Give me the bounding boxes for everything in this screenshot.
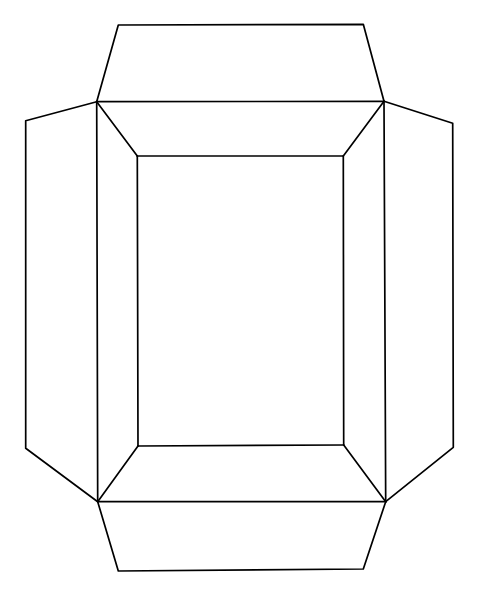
fold-base-left [137, 156, 138, 446]
left-wall-panel [97, 102, 138, 502]
fold-base-bottom [138, 445, 344, 446]
panel-fill-group [26, 24, 454, 571]
base-panel [137, 156, 343, 446]
top-flap [97, 24, 384, 101]
right-flap [384, 101, 453, 501]
top-wall-panel [97, 101, 384, 156]
right-wall-panel [343, 101, 385, 501]
fold-wall-left [97, 102, 98, 502]
box-net-diagram [0, 0, 482, 593]
net-drawing-canvas [0, 0, 482, 593]
bottom-flap [98, 502, 386, 571]
left-flap [26, 102, 98, 502]
bottom-wall-panel [98, 445, 386, 502]
